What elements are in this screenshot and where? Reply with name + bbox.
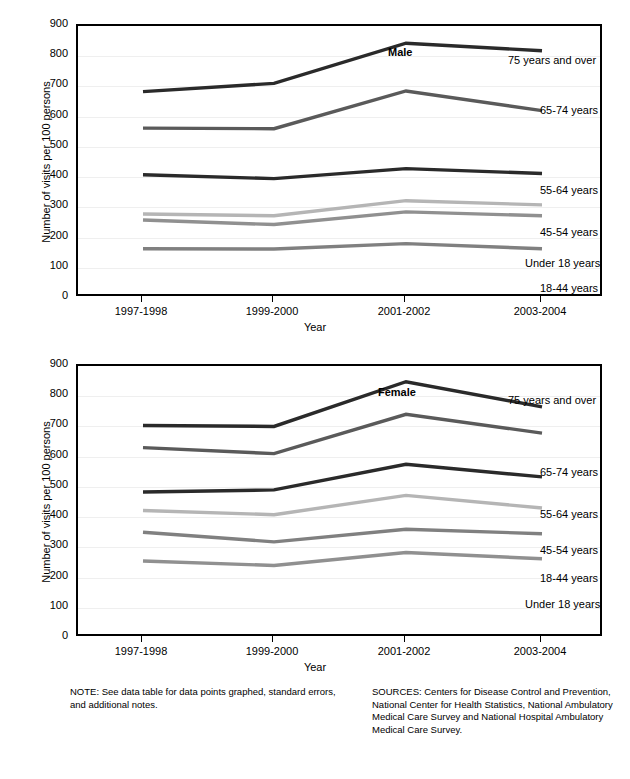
x-tick-mark	[272, 296, 273, 302]
chart-panel-female: Number of visits per 100 persons 9008007…	[0, 340, 630, 680]
y-tick-label: 300	[26, 539, 68, 550]
series-label: 18-44 years	[540, 282, 598, 294]
x-tick-label: 2003-2004	[495, 305, 585, 317]
footnotes: NOTE: See data table for data points gra…	[0, 686, 630, 779]
series-label: 18-44 years	[540, 572, 598, 584]
series-label: 75 years and over	[508, 394, 596, 406]
y-tick-label: 100	[26, 600, 68, 611]
y-tick-label: 200	[26, 570, 68, 581]
y-tick-label: 200	[26, 230, 68, 241]
y-tick-label: 400	[26, 509, 68, 520]
series-label: 55-64 years	[540, 508, 598, 520]
series-line	[143, 169, 542, 179]
panel-title-female: Female	[378, 386, 416, 398]
x-tick-mark	[540, 636, 541, 642]
x-axis-title-male: Year	[0, 321, 630, 333]
plot-area-male: 75 years and over65-74 years55-64 years4…	[76, 24, 602, 296]
chart-panel-male: Number of visits per 100 persons 9008007…	[0, 0, 630, 340]
y-tick-label: 800	[26, 48, 68, 59]
y-tick-label: 0	[26, 630, 68, 641]
x-tick-label: 1997-1998	[96, 645, 186, 657]
sources-text: SOURCES: Centers for Disease Control and…	[372, 686, 622, 736]
series-line	[143, 495, 542, 514]
series-label: 55-64 years	[540, 184, 598, 196]
series-label: 65-74 years	[540, 104, 598, 116]
series-label: 45-54 years	[540, 226, 598, 238]
y-axis-title-male: Number of visits per 100 persons	[40, 32, 52, 292]
x-tick-label: 1999-2000	[227, 645, 317, 657]
series-label: Under 18 years	[525, 598, 600, 610]
x-tick-mark	[141, 296, 142, 302]
x-tick-mark	[141, 636, 142, 642]
series-line	[143, 414, 542, 453]
x-tick-label: 1999-2000	[227, 305, 317, 317]
series-label: 45-54 years	[540, 544, 598, 556]
x-tick-mark	[404, 636, 405, 642]
y-tick-label: 500	[26, 139, 68, 150]
y-tick-label: 100	[26, 260, 68, 271]
x-tick-label: 1997-1998	[96, 305, 186, 317]
series-line	[143, 43, 542, 91]
series-label: 65-74 years	[540, 466, 598, 478]
series-line	[143, 244, 542, 249]
x-tick-label: 2001-2002	[359, 645, 449, 657]
y-tick-label: 800	[26, 388, 68, 399]
x-tick-mark	[272, 636, 273, 642]
y-tick-label: 700	[26, 418, 68, 429]
series-line	[143, 382, 542, 427]
x-tick-label: 2003-2004	[495, 645, 585, 657]
y-tick-label: 900	[26, 18, 68, 29]
y-axis-title-female: Number of visits per 100 persons	[40, 372, 52, 632]
series-line	[143, 91, 542, 129]
y-tick-label: 700	[26, 78, 68, 89]
y-tick-label: 600	[26, 109, 68, 120]
x-tick-mark	[540, 296, 541, 302]
series-line	[143, 464, 542, 492]
plot-area-female: 75 years and over65-74 years55-64 years4…	[76, 364, 602, 636]
x-tick-mark	[404, 296, 405, 302]
series-line	[143, 529, 542, 542]
panel-title-male: Male	[388, 46, 412, 58]
x-axis-title-female: Year	[0, 661, 630, 673]
note-text: NOTE: See data table for data points gra…	[70, 686, 340, 711]
y-tick-label: 500	[26, 479, 68, 490]
y-tick-label: 0	[26, 290, 68, 301]
x-tick-label: 2001-2002	[359, 305, 449, 317]
series-label: 75 years and over	[508, 54, 596, 66]
y-tick-label: 400	[26, 169, 68, 180]
y-tick-label: 600	[26, 449, 68, 460]
y-tick-label: 900	[26, 358, 68, 369]
series-line	[143, 552, 542, 565]
series-label: Under 18 years	[525, 257, 600, 269]
y-tick-label: 300	[26, 199, 68, 210]
